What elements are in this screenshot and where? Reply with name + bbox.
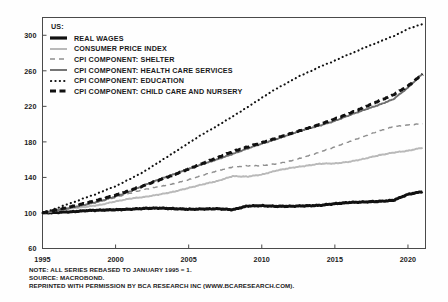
footnote-note: NOTE: ALL SERIES REBASED TO JANUARY 1995…	[29, 266, 429, 274]
legend-item-shelter[interactable]: CPI COMPONENT: SHELTER	[50, 54, 300, 65]
y-tick-label-220: 220	[13, 102, 37, 111]
legend-item-real-wages[interactable]: REAL WAGES	[50, 33, 300, 44]
x-tick-label-2020: 2020	[388, 255, 428, 264]
chart-figure: US: REAL WAGES CONSUMER PRICE INDEX CPI …	[0, 0, 448, 302]
legend-item-consumer-price-index[interactable]: CONSUMER PRICE INDEX	[50, 44, 300, 55]
chart-legend: US: REAL WAGES CONSUMER PRICE INDEX CPI …	[50, 22, 300, 97]
y-tick-label-60: 60	[13, 244, 37, 253]
legend-swatch-real-wages	[50, 33, 69, 43]
legend-label-consumer-price-index: CONSUMER PRICE INDEX	[74, 44, 167, 53]
legend-item-education[interactable]: CPI COMPONENT: EDUCATION	[50, 75, 300, 86]
legend-title: US:	[51, 22, 300, 31]
legend-label-shelter: CPI COMPONENT: SHELTER	[74, 55, 175, 64]
x-tick-label-2010: 2010	[242, 255, 282, 264]
x-tick-label-2015: 2015	[315, 255, 355, 264]
y-tick-label-180: 180	[13, 138, 37, 147]
x-axis-ticks	[43, 245, 408, 249]
y-tick-label-100: 100	[13, 209, 37, 218]
legend-item-health-care-services[interactable]: CPI COMPONENT: HEALTH CARE SERVICES	[50, 65, 300, 76]
legend-swatch-education	[50, 76, 69, 86]
series-line-real-wages	[43, 192, 423, 213]
legend-swatch-shelter	[50, 54, 69, 64]
legend-swatch-child-care-and-nursery	[50, 86, 69, 96]
footnote-source: SOURCE: MACROBOND.	[29, 274, 429, 282]
x-tick-label-2000: 2000	[96, 255, 136, 264]
legend-swatch-consumer-price-index	[50, 44, 69, 54]
y-tick-label-300: 300	[13, 31, 37, 40]
legend-label-real-wages: REAL WAGES	[74, 34, 124, 43]
legend-label-health-care-services: CPI COMPONENT: HEALTH CARE SERVICES	[74, 66, 233, 75]
legend-item-child-care-and-nursery[interactable]: CPI COMPONENT: CHILD CARE AND NURSERY	[50, 86, 300, 97]
footnote-permission: REPRINTED WITH PERMISSION BY BCA RESEARC…	[29, 282, 429, 290]
y-axis-ticks	[43, 35, 47, 248]
y-tick-label-260: 260	[13, 67, 37, 76]
chart-footnotes: NOTE: ALL SERIES REBASED TO JANUARY 1995…	[29, 266, 429, 291]
y-tick-label-140: 140	[13, 173, 37, 182]
x-tick-label-2005: 2005	[169, 255, 209, 264]
legend-label-child-care-and-nursery: CPI COMPONENT: CHILD CARE AND NURSERY	[74, 87, 242, 96]
legend-label-education: CPI COMPONENT: EDUCATION	[74, 76, 184, 85]
x-tick-label-1995: 1995	[23, 255, 63, 264]
legend-swatch-health-care-services	[50, 65, 69, 75]
